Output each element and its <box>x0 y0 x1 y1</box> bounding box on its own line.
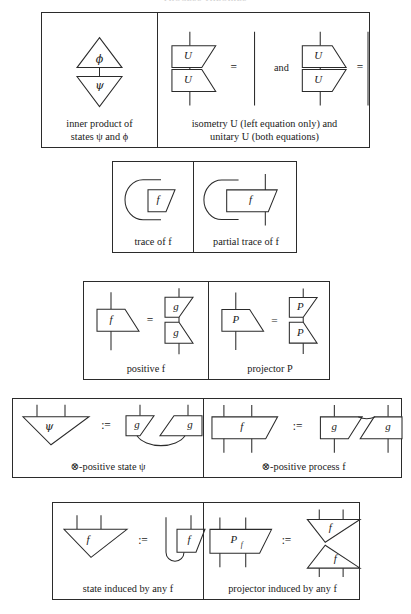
caption-projector: projector P <box>209 363 331 379</box>
label-psi: ψ <box>95 79 104 92</box>
cell-projector-induced: P f := f f projector indu <box>203 503 361 599</box>
caption-tensor-positive-state: ⊗-positive state ψ <box>13 461 203 477</box>
label-g-state-2: g <box>187 418 193 430</box>
label-phi: ϕ <box>96 53 104 66</box>
diagram-state-induced: f := f <box>53 503 203 583</box>
diagram-trace: f <box>113 162 193 236</box>
cell-state-induced: f := f state induced by any f <box>53 503 203 599</box>
label-u-3: U <box>314 49 323 61</box>
label-p-projector: P <box>231 313 239 325</box>
diagram-isometry-unitary: U U = and U <box>158 13 371 118</box>
label-g-process-2: g <box>385 420 391 432</box>
label-defines-projector-induced: := <box>282 534 292 546</box>
caption-isometry-unitary: isometry U (left equation only) and unit… <box>158 118 371 147</box>
label-psi-tensor: ψ <box>45 420 54 433</box>
label-g-positive-1: g <box>173 300 179 312</box>
cell-positive: f = g g positive f <box>84 282 208 379</box>
diagram-inner-product: ϕ ψ <box>42 13 157 118</box>
cell-isometry-unitary: U U = and U <box>157 13 371 147</box>
cell-inner-product: ϕ ψ inner product of states ψ and ϕ <box>42 13 157 147</box>
label-defines-state: := <box>101 419 111 431</box>
panel-tensor-positive: ψ := g g ⊗-positive state ψ <box>12 398 402 478</box>
label-equals-positive: = <box>147 314 154 326</box>
label-defines-process: := <box>293 420 303 432</box>
cell-trace: f trace of f <box>113 162 193 252</box>
cutoff-page-title: PROCESS THEORIES <box>0 0 411 1</box>
label-equals-projector: = <box>271 314 277 326</box>
caption-state-induced: state induced by any f <box>53 583 203 599</box>
diagram-projector-induced: P f := f f <box>204 503 361 583</box>
label-p-projector-1: P <box>296 300 304 312</box>
panel-positive-projector: f = g g positive f <box>83 281 330 380</box>
label-and: and <box>274 62 289 73</box>
caption-tensor-positive-process: ⊗-positive process f <box>204 461 403 477</box>
label-g-process-1: g <box>332 420 338 432</box>
diagram-projector: P = P P <box>209 282 331 363</box>
caption-inner-product: inner product of states ψ and ϕ <box>42 118 157 147</box>
diagram-tensor-positive-state: ψ := g g <box>13 399 203 461</box>
caption-trace: trace of f <box>113 236 193 252</box>
diagram-positive: f = g g <box>84 282 208 363</box>
label-p-projector-2: P <box>296 326 304 338</box>
label-u-1: U <box>184 49 193 61</box>
label-g-positive-2: g <box>173 326 179 338</box>
panel-traces: f trace of f f partial trace of f <box>112 161 297 253</box>
label-p-projector-induced: P <box>229 533 237 545</box>
label-g-state-1: g <box>134 418 140 430</box>
panel-induced: f := f state induced by any f P <box>52 502 360 600</box>
label-u-2: U <box>184 73 193 85</box>
caption-projector-induced: projector induced by any f <box>204 583 361 599</box>
cell-projector: P = P P projector P <box>208 282 331 379</box>
label-equals-2: = <box>357 61 363 73</box>
caption-partial-trace: partial trace of f <box>194 236 298 252</box>
panel-inner-product-isometry: ϕ ψ inner product of states ψ and ϕ U <box>41 12 370 148</box>
diagram-tensor-positive-process: f := g g <box>204 399 403 461</box>
label-equals-1: = <box>230 61 236 73</box>
label-defines-state-induced: := <box>138 534 148 546</box>
label-u-4: U <box>314 73 323 85</box>
cell-tensor-positive-state: ψ := g g ⊗-positive state ψ <box>13 399 203 477</box>
diagram-sheet: PROCESS THEORIES ϕ ψ inner product of st… <box>0 0 411 614</box>
diagram-partial-trace: f <box>194 162 298 236</box>
cell-partial-trace: f partial trace of f <box>193 162 298 252</box>
cell-tensor-positive-process: f := g g ⊗-p <box>203 399 403 477</box>
caption-positive: positive f <box>84 363 208 379</box>
